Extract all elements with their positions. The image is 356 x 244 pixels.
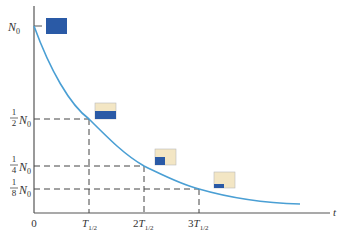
- decay-curve: [34, 26, 300, 204]
- label-t-half: T1/2: [82, 217, 98, 232]
- label-n0: N0: [7, 20, 20, 36]
- label-half-n0: 1 2 N0: [10, 107, 31, 129]
- svg-text:4: 4: [12, 165, 17, 175]
- label-quarter-n0: 1 4 N0: [10, 154, 31, 176]
- sample-box-0: [46, 18, 67, 34]
- svg-text:8: 8: [12, 188, 17, 198]
- sample-box-2: [155, 149, 176, 165]
- svg-text:1: 1: [12, 107, 17, 117]
- svg-text:N0: N0: [18, 183, 31, 199]
- decay-chart: N0 1 2 N0 1 4 N0 1 8 N0 0 T1/2 2T1/2 3T1…: [0, 0, 356, 244]
- label-3t-half: 3T1/2: [188, 217, 209, 232]
- guide-lines: [34, 119, 199, 213]
- svg-text:N0: N0: [18, 160, 31, 176]
- svg-text:2: 2: [12, 118, 17, 128]
- svg-text:1: 1: [12, 177, 17, 187]
- sample-box-1: [95, 103, 116, 119]
- label-eighth-n0: 1 8 N0: [10, 177, 31, 199]
- sample-box-3: [214, 172, 235, 188]
- svg-text:N0: N0: [18, 113, 31, 129]
- label-2t-half: 2T1/2: [133, 217, 154, 232]
- label-t-axis: t: [333, 206, 337, 218]
- label-origin: 0: [31, 217, 37, 229]
- svg-text:1: 1: [12, 154, 17, 164]
